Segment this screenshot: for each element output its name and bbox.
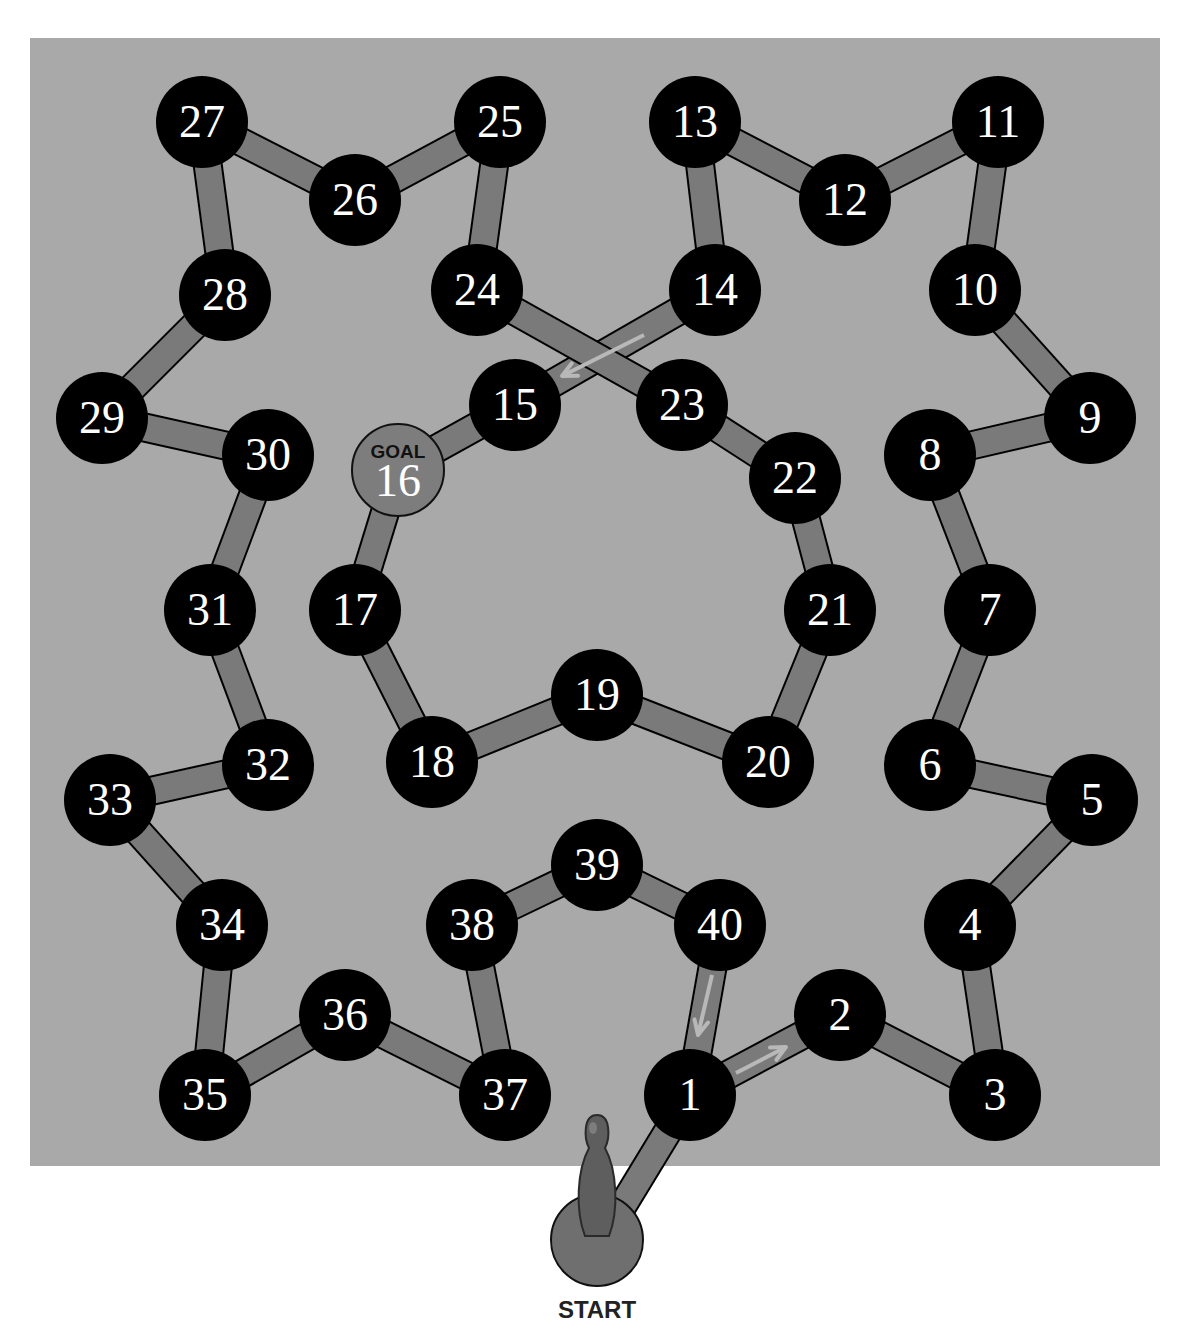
board-space[interactable]: 15 [469,359,561,451]
board-space[interactable]: 35 [159,1049,251,1141]
board-space[interactable]: 38 [426,879,518,971]
space-number: 36 [322,989,368,1040]
space-number: 13 [672,96,718,147]
board-space[interactable]: 30 [222,409,314,501]
board-space[interactable]: 19 [551,649,643,741]
space-number: 25 [477,96,523,147]
space-number: 5 [1081,774,1104,825]
space-number: 30 [245,429,291,480]
space-number: 33 [87,774,133,825]
space-number: 12 [822,174,868,225]
space-number: 1 [679,1069,702,1120]
space-number: 23 [659,379,705,430]
board-space[interactable]: 29 [56,372,148,464]
space-number: 18 [409,736,455,787]
board-space[interactable]: 5 [1046,754,1138,846]
space-number: 16 [375,455,421,506]
board-space[interactable]: 31 [164,564,256,656]
board-space[interactable]: 1 [644,1049,736,1141]
board-space[interactable]: 10 [929,244,1021,336]
space-number: 24 [454,264,500,315]
board-space[interactable]: 12 [799,154,891,246]
space-number: 38 [449,899,495,950]
board-space[interactable]: 32 [222,719,314,811]
space-number: 21 [807,584,853,635]
space-number: 8 [919,429,942,480]
board-space[interactable]: 28 [179,249,271,341]
space-number: 39 [574,839,620,890]
board-space[interactable]: 22 [749,432,841,524]
board-space[interactable]: 27 [156,76,248,168]
space-number: 31 [187,584,233,635]
board-space[interactable]: 4 [924,879,1016,971]
board-space[interactable]: 33 [64,754,156,846]
board-space[interactable]: 14 [669,244,761,336]
space-number: 34 [199,899,245,950]
space-number: 19 [574,669,620,720]
board-space[interactable]: 23 [636,359,728,451]
board-space[interactable]: 11 [952,76,1044,168]
start-label: START [558,1296,637,1323]
board-space[interactable]: 6 [884,719,976,811]
board-space[interactable]: 17 [309,564,401,656]
board-space[interactable]: 36 [299,969,391,1061]
space-number: 26 [332,174,378,225]
space-number: 29 [79,392,125,443]
space-number: 2 [829,989,852,1040]
board-space[interactable]: 9 [1044,372,1136,464]
space-number: 4 [959,899,982,950]
board-space[interactable]: 21 [784,564,876,656]
space-number: 3 [984,1069,1007,1120]
board-space[interactable]: 24 [431,244,523,336]
board-space[interactable]: 26 [309,154,401,246]
space-number: 20 [745,736,791,787]
board-space[interactable]: 25 [454,76,546,168]
board-space[interactable]: 20 [722,716,814,808]
board-space[interactable]: 18 [386,716,478,808]
board-space[interactable]: 8 [884,409,976,501]
space-number: 22 [772,452,818,503]
board-space[interactable]: 39 [551,819,643,911]
space-number: 10 [952,264,998,315]
board-space[interactable]: 7 [944,564,1036,656]
space-number: 14 [692,264,738,315]
space-number: 9 [1079,392,1102,443]
board-space[interactable]: 3 [949,1049,1041,1141]
space-number: 35 [182,1069,228,1120]
board-space[interactable]: 2 [794,969,886,1061]
space-number: 15 [492,379,538,430]
space-number: 32 [245,739,291,790]
space-number: 40 [697,899,743,950]
space-number: 7 [979,584,1002,635]
space-number: 6 [919,739,942,790]
goal-space[interactable]: GOAL16 [352,424,444,516]
board-space[interactable]: 13 [649,76,741,168]
space-number: 17 [332,584,378,635]
space-number: 11 [976,96,1020,147]
board-space[interactable]: 40 [674,879,766,971]
board-space[interactable]: 37 [459,1049,551,1141]
space-number: 27 [179,96,225,147]
game-board: 123456789101112131415GOAL161718192021222… [0,0,1181,1343]
space-number: 37 [482,1069,528,1120]
space-number: 28 [202,269,248,320]
board-space[interactable]: 34 [176,879,268,971]
